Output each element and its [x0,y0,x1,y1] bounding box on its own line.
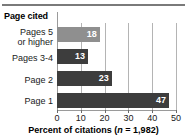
x-tick-label-0: 0 [46,113,68,124]
y-tick-label-line-1: Page 2 [1,75,53,85]
x-tick-label-30: 30 [117,113,139,124]
plot-area: 18 13 23 47 [57,23,176,110]
y-tick-label-line-2: or higher [1,37,53,47]
x-tick-label-50: 50 [165,113,187,124]
bar-value-label-pages-5-or-higher: 18 [57,27,100,42]
y-tick-label-page-2: Page 2 [1,75,53,85]
bar-value-label-pages-3-4: 13 [57,49,88,64]
bar-value-label-page-1: 47 [57,93,169,108]
x-tick-label-20: 20 [94,113,116,124]
x-axis-line [57,110,177,111]
bar-chart-figure: Page cited Pages 5 or higher Pages 3-4 P… [0,0,187,140]
x-tick-label-40: 40 [141,113,163,124]
y-tick-label-pages-3-4: Pages 3-4 [1,53,53,63]
y-tick-label-page-1: Page 1 [1,96,53,106]
bar-value-label-page-2: 23 [57,71,112,86]
x-axis-title-prefix: Percent of citations ( [28,125,117,135]
x-tick-label-10: 10 [70,113,92,124]
y-tick-label-line-1: Page 1 [1,96,53,106]
y-tick-label-line-1: Pages 5 [1,27,53,37]
x-axis-title: Percent of citations (n = 1,982) [0,125,187,136]
top-divider-rule [2,4,185,6]
gridline-50 [176,23,177,110]
y-tick-label-pages-5-or-higher: Pages 5 or higher [1,27,53,47]
y-tick-label-line-1: Pages 3-4 [1,53,53,63]
x-axis-title-suffix: = 1,982) [123,125,159,135]
y-axis-title: Page cited [4,11,56,22]
